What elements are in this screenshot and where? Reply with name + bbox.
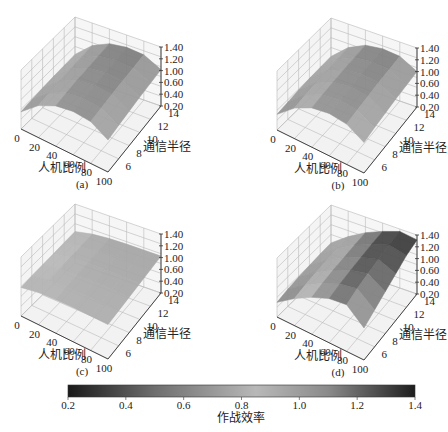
z-tick-label: 1.00 [164, 252, 184, 264]
x-axis-label: 人机比例 [294, 349, 342, 363]
x-tick-label: 40 [302, 150, 314, 162]
panel-caption: (d) [332, 366, 345, 379]
colorbar-tick-label: 1.0 [292, 399, 306, 411]
x-tick-label: 20 [285, 329, 297, 341]
z-tick-label: 0.40 [420, 89, 440, 101]
x-axis-label: 人机比例 [38, 161, 86, 175]
colorbar-tick-label: 0.4 [119, 399, 133, 411]
y-tick-label: 6 [126, 160, 132, 172]
y-axis-label: 通信半径 [143, 327, 191, 341]
y-tick-label: 6 [382, 161, 388, 173]
z-tick-label: 1.00 [164, 65, 184, 77]
colorbar-tick-label: 1.4 [408, 399, 422, 411]
y-tick-label: 12 [157, 307, 168, 319]
panel-b: 020406080100681012141.401.201.000.600.40… [270, 18, 447, 192]
z-tick-label: 1.20 [164, 53, 184, 65]
z-tick-label: 0.40 [420, 276, 440, 288]
colorbar-tick-label: 0.6 [177, 399, 191, 411]
y-axis-label: 通信半径 [399, 141, 447, 155]
x-tick-label: 0 [14, 319, 20, 331]
colorbar-gradient [68, 385, 415, 397]
x-tick-label: 100 [352, 176, 369, 188]
z-tick-label: 0.20 [164, 287, 184, 299]
x-tick-label: 100 [96, 362, 113, 374]
colorbar-tick-label: 1.2 [350, 399, 364, 411]
panel-c: 020406080100681012141.401.201.000.600.40… [14, 204, 191, 378]
z-tick-label: 1.00 [420, 253, 440, 265]
z-tick-label: 1.00 [420, 66, 440, 78]
colorbar-tick-label: 0.2 [61, 399, 75, 411]
x-tick-label: 20 [29, 141, 41, 153]
panel-a: 020406080100681012141.401.201.000.600.40… [14, 17, 191, 191]
y-tick-label: 8 [136, 334, 142, 346]
x-tick-label: 0 [14, 132, 20, 144]
panel-caption: (c) [76, 365, 89, 378]
x-tick-label: 0 [270, 133, 276, 145]
x-tick-label: 100 [352, 363, 369, 375]
panel-d: 020406080100681012141.401.201.000.600.40… [270, 205, 447, 379]
z-tick-label: 1.20 [420, 54, 440, 66]
figure: 020406080100681012141.401.201.000.600.40… [0, 0, 448, 432]
x-tick-label: 40 [46, 149, 58, 161]
y-tick-label: 12 [413, 308, 424, 320]
colorbar-tick-label: 0.8 [235, 399, 249, 411]
panel-caption: (b) [332, 179, 345, 192]
z-tick-label: 1.40 [164, 41, 184, 53]
z-tick-label: 1.40 [420, 42, 440, 54]
z-tick-label: 0.60 [164, 76, 184, 88]
x-axis-label: 人机比例 [38, 348, 86, 362]
z-tick-label: 1.40 [420, 229, 440, 241]
colorbar: 0.20.40.60.81.01.21.4 作战效率 [61, 385, 422, 425]
z-tick-label: 1.20 [164, 240, 184, 252]
y-tick-label: 8 [392, 148, 398, 160]
z-tick-label: 0.40 [164, 88, 184, 100]
y-tick-label: 6 [126, 347, 132, 359]
y-axis-label: 通信半径 [399, 328, 447, 342]
y-tick-label: 8 [392, 335, 398, 347]
x-tick-label: 100 [96, 175, 113, 187]
panel-caption: (a) [76, 178, 89, 191]
z-tick-label: 0.60 [420, 77, 440, 89]
x-tick-label: 40 [302, 337, 314, 349]
x-tick-label: 20 [285, 142, 297, 154]
x-tick-label: 0 [270, 320, 276, 332]
z-tick-label: 0.60 [420, 264, 440, 276]
z-tick-label: 1.20 [420, 241, 440, 253]
x-tick-label: 20 [29, 328, 41, 340]
z-tick-label: 0.20 [164, 100, 184, 112]
y-axis-label: 通信半径 [143, 140, 191, 154]
z-tick-label: 0.60 [164, 263, 184, 275]
z-tick-label: 1.40 [164, 228, 184, 240]
surface-panels: 020406080100681012141.401.201.000.600.40… [14, 17, 447, 379]
y-tick-label: 12 [157, 120, 168, 132]
colorbar-label: 作战效率 [217, 410, 265, 425]
z-tick-label: 0.40 [164, 275, 184, 287]
z-tick-label: 0.20 [420, 101, 440, 113]
colorbar-ticks: 0.20.40.60.81.01.21.4 [61, 397, 422, 411]
y-tick-label: 12 [413, 121, 424, 133]
x-axis-label: 人机比例 [294, 162, 342, 176]
y-tick-label: 6 [382, 348, 388, 360]
z-tick-label: 0.20 [420, 288, 440, 300]
x-tick-label: 40 [46, 336, 58, 348]
y-tick-label: 8 [136, 147, 142, 159]
